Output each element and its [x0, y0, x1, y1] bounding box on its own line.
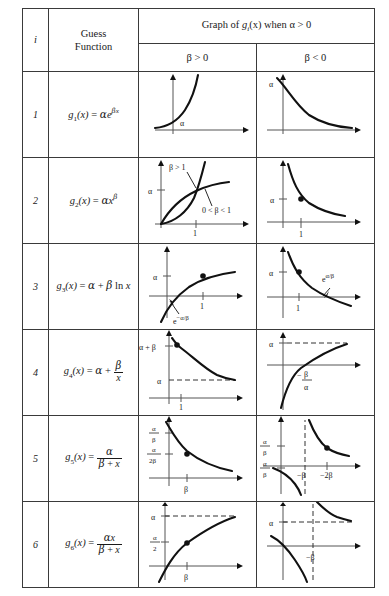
graph-beta-positive: β > 1 0 < β < 1 α 1: [139, 158, 257, 244]
label-x-intercept-sign: −: [297, 371, 302, 380]
label-alpha-upper-num: α: [263, 438, 267, 446]
row-function: g3(x) = α + β ln x: [49, 244, 139, 330]
row-function: g4(x) = α + βx: [49, 330, 139, 416]
graph-beta-positive: α: [139, 72, 257, 158]
row-function: g6(x) = αx β + x: [49, 502, 139, 588]
row-index: 6: [23, 502, 49, 588]
table-row: 3 g3(x) = α + β ln x α 1: [23, 244, 375, 330]
label-beta-den: β: [152, 436, 156, 444]
label-beta-lower-den: β: [263, 471, 267, 479]
graph-beta-negative: α 1: [257, 158, 375, 244]
label-x-one: 1: [299, 230, 303, 239]
label-alpha: α: [269, 519, 274, 528]
label-alpha-lower-num: α: [263, 460, 267, 468]
graph-beta-negative: α: [257, 72, 375, 158]
label-alpha: α: [151, 513, 156, 522]
label-x-minus-beta: −β: [297, 471, 306, 480]
table-row: 5 g5(x) = αβ + x α: [23, 416, 375, 502]
label-alpha-num-2: α: [152, 446, 156, 454]
graph-beta-negative: α − β α: [257, 330, 375, 416]
label-alpha-over-2-den: 2: [153, 545, 157, 553]
label-x-one: 1: [179, 403, 183, 412]
label-x-beta: β: [184, 573, 188, 582]
label-beta-gt-1: β > 1: [169, 163, 186, 172]
row-index: 5: [23, 416, 49, 502]
row-function: g1(x) = αeβx: [49, 72, 139, 158]
graph-beta-positive: α β α 2β β: [139, 416, 257, 502]
label-x-intercept-den: α: [304, 383, 309, 392]
row-index: 4: [23, 330, 49, 416]
label-beta-between: 0 < β < 1: [202, 206, 231, 215]
label-alpha-over-2-num: α: [153, 534, 157, 542]
label-x-beta: β: [184, 485, 188, 494]
graph-beta-negative: α β α β −β −2β: [257, 416, 375, 502]
header-graph-title: Graph of gi(x) when α > 0: [139, 9, 375, 44]
label-x-one: 1: [200, 302, 204, 311]
table-header-row-1: i Guess Function Graph of gi(x) when α >…: [23, 9, 375, 44]
label-alpha: α: [269, 269, 274, 278]
row-index: 1: [23, 72, 49, 158]
label-beta-upper-den: β: [263, 449, 267, 457]
label-x-intercept-num: β: [304, 370, 308, 379]
header-index: i: [23, 9, 49, 72]
header-guess-function: Guess Function: [49, 9, 139, 72]
label-alpha: α: [157, 377, 162, 386]
label-x-one: 1: [193, 229, 197, 238]
graph-beta-negative: α −β: [257, 502, 375, 588]
label-x-intercept: eα/β: [322, 272, 335, 284]
table-page: i Guess Function Graph of gi(x) when α >…: [0, 0, 389, 596]
label-x-minus-2beta: −2β: [320, 471, 333, 480]
label-2beta-den: 2β: [149, 457, 157, 465]
header-beta-positive: β > 0: [139, 44, 257, 72]
label-alpha: α: [269, 80, 274, 89]
header-beta-negative: β < 0: [257, 44, 375, 72]
graph-beta-negative: α 1 eα/β: [257, 244, 375, 330]
row-index: 3: [23, 244, 49, 330]
graph-beta-positive: α 1 e−α/β: [139, 244, 257, 330]
table-row: 1 g1(x) = αeβx α: [23, 72, 375, 158]
label-alpha: α: [270, 196, 275, 205]
label-alpha: α: [180, 119, 185, 128]
table-row: 6 g6(x) = αx β + x: [23, 502, 375, 588]
graph-beta-positive: α α 2 β: [139, 502, 257, 588]
label-alpha-num: α: [152, 425, 156, 433]
label-alpha-plus-beta: α + β: [139, 343, 156, 352]
fraction-beta-over-x: βx: [114, 361, 124, 383]
label-x-one: 1: [296, 304, 300, 313]
label-x-intercept: e−α/β: [173, 314, 189, 326]
graph-beta-positive: α + β α 1: [139, 330, 257, 416]
table-row: 4 g4(x) = α + βx α + β: [23, 330, 375, 416]
label-alpha: α: [153, 273, 158, 282]
label-x-minus-beta: −β: [306, 553, 315, 562]
row-function: g5(x) = αβ + x: [49, 416, 139, 502]
label-alpha: α: [148, 187, 153, 196]
fraction-alpha-x-over-beta-plus-x: αx β + x: [97, 533, 122, 555]
guess-function-table: i Guess Function Graph of gi(x) when α >…: [22, 8, 375, 588]
label-alpha: α: [269, 340, 274, 349]
row-index: 2: [23, 158, 49, 244]
fraction-alpha-over-beta-plus-x: αβ + x: [97, 447, 122, 469]
table-row: 2 g2(x) = αxβ β > 1 0: [23, 158, 375, 244]
row-function: g2(x) = αxβ: [49, 158, 139, 244]
